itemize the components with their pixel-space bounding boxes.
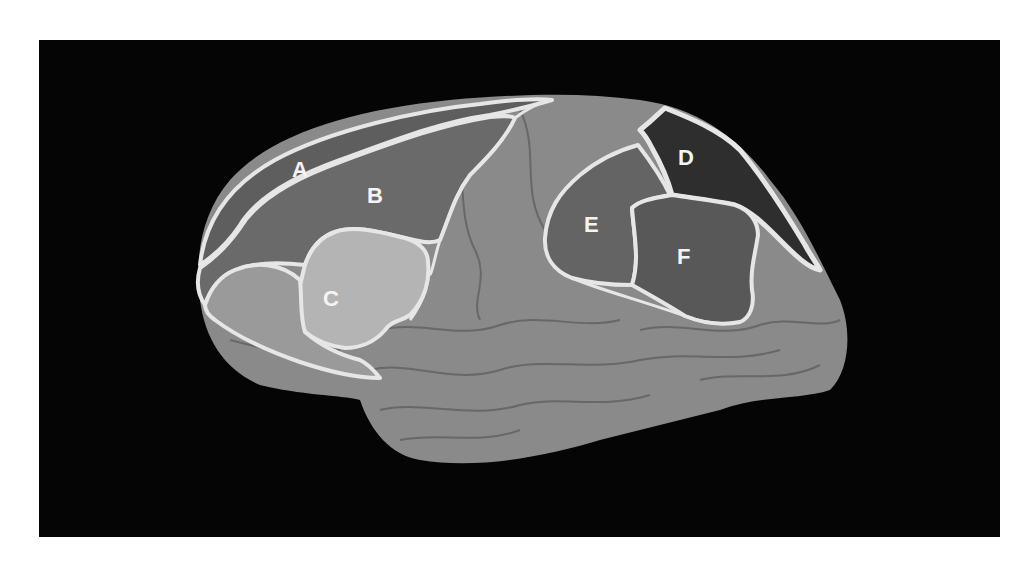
region-c-label: C xyxy=(323,286,339,311)
region-d-label: D xyxy=(678,145,694,170)
brain-lateral-view: A B C D E F xyxy=(0,0,1033,564)
region-f-label: F xyxy=(677,244,690,269)
region-e-label: E xyxy=(584,212,599,237)
region-a-label: A xyxy=(292,157,308,182)
region-b-label: B xyxy=(367,183,383,208)
